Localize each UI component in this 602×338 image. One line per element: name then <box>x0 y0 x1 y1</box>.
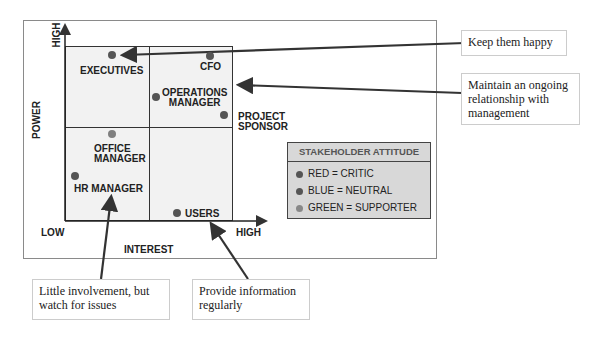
label-line: MANAGER <box>169 97 221 108</box>
stakeholder-label-cfo: CFO <box>200 62 221 72</box>
stakeholder-dot-office-manager <box>108 130 116 138</box>
stakeholder-label-hr-manager: HR MANAGER <box>74 184 143 194</box>
x-axis-high-label: HIGH <box>236 228 261 238</box>
stakeholder-label-users: USERS <box>185 209 219 219</box>
callout-little-involvement: Little involvement, but watch for issues <box>32 279 170 320</box>
legend-label: BLUE = NEUTRAL <box>308 185 392 196</box>
callout-maintain-relationship: Maintain an ongoing relationship with ma… <box>461 73 580 125</box>
stakeholder-label-office-manager: OFFICE MANAGER <box>94 144 146 164</box>
y-axis-high-label: HIGH <box>52 20 62 50</box>
stakeholder-dot-hr-manager <box>71 172 79 180</box>
legend-item-supporter: GREEN = SUPPORTER <box>288 199 430 216</box>
legend-label: GREEN = SUPPORTER <box>308 202 417 213</box>
stakeholder-dot-operations-manager <box>152 93 160 101</box>
legend-item-critic: RED = CRITIC <box>288 165 430 182</box>
green-dot-icon <box>296 205 303 212</box>
callout-provide-information: Provide information regularly <box>192 279 310 320</box>
red-dot-icon <box>296 171 303 178</box>
x-axis-label: INTEREST <box>124 245 173 255</box>
legend-item-neutral: BLUE = NEUTRAL <box>288 182 430 199</box>
stakeholder-dot-users <box>173 209 181 217</box>
stakeholder-dot-project-sponsor <box>220 111 228 119</box>
stakeholder-label-operations-manager: OPERATIONS MANAGER <box>162 88 227 108</box>
stakeholder-dot-executives <box>108 51 116 59</box>
label-line: MANAGER <box>94 153 146 164</box>
blue-dot-icon <box>296 188 303 195</box>
x-axis-low-label: LOW <box>41 228 64 238</box>
label-line: SPONSOR <box>238 121 288 132</box>
stakeholder-dot-cfo <box>206 52 214 60</box>
callout-keep-them-happy: Keep them happy <box>461 30 567 56</box>
legend-label: RED = CRITIC <box>308 168 374 179</box>
stakeholder-attitude-legend: STAKEHOLDER ATTITUDE RED = CRITIC BLUE =… <box>287 142 431 219</box>
legend-title: STAKEHOLDER ATTITUDE <box>288 143 430 162</box>
stakeholder-label-project-sponsor: PROJECT SPONSOR <box>238 112 288 132</box>
stakeholder-label-executives: EXECUTIVES <box>80 66 143 76</box>
y-axis-label: POWER <box>32 95 42 145</box>
